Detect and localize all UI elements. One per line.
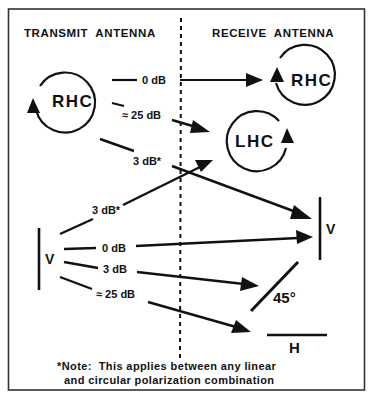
polarization-diagram: TRANSMIT ANTENNA RECEIVE ANTENNA RHC RHC…	[0, 0, 370, 398]
receive-lhc-label: LHC	[235, 132, 274, 151]
label-v-to-h: ≈ 25 dB	[96, 288, 135, 300]
receive-h-label: H	[289, 339, 300, 356]
divider-line	[180, 18, 181, 360]
note-line-1: *Note: This applies between any linear	[57, 360, 276, 372]
receive-45-label: 45°	[273, 289, 296, 306]
label-rhc-to-v: 3 dB*	[133, 155, 162, 167]
arrow-rhc-to-rhc	[112, 73, 263, 87]
label-v-to-lhc: 3 dB*	[92, 204, 121, 216]
arrow-rhc-to-v	[100, 139, 312, 219]
arrow-v-to-45	[64, 262, 259, 291]
receive-v-label: V	[326, 221, 336, 237]
receive-rhc-label: RHC	[291, 71, 332, 90]
arrow-v-to-h	[60, 277, 251, 333]
frame-border	[9, 9, 365, 390]
label-v-to-45: 3 dB	[103, 263, 127, 275]
receive-header: RECEIVE ANTENNA	[212, 27, 334, 39]
transmit-rhc-label: RHC	[52, 92, 93, 111]
transmit-v-label: V	[45, 251, 55, 267]
transmit-header: TRANSMIT ANTENNA	[24, 27, 156, 39]
label-rhc-to-rhc: 0 dB	[142, 74, 166, 86]
note-line-2: and circular polarization combination	[64, 374, 274, 386]
label-v-to-v: 0 dB	[102, 242, 126, 254]
arrow-v-to-lhc	[60, 160, 213, 234]
label-rhc-to-lhc: ≈ 25 dB	[122, 109, 161, 121]
